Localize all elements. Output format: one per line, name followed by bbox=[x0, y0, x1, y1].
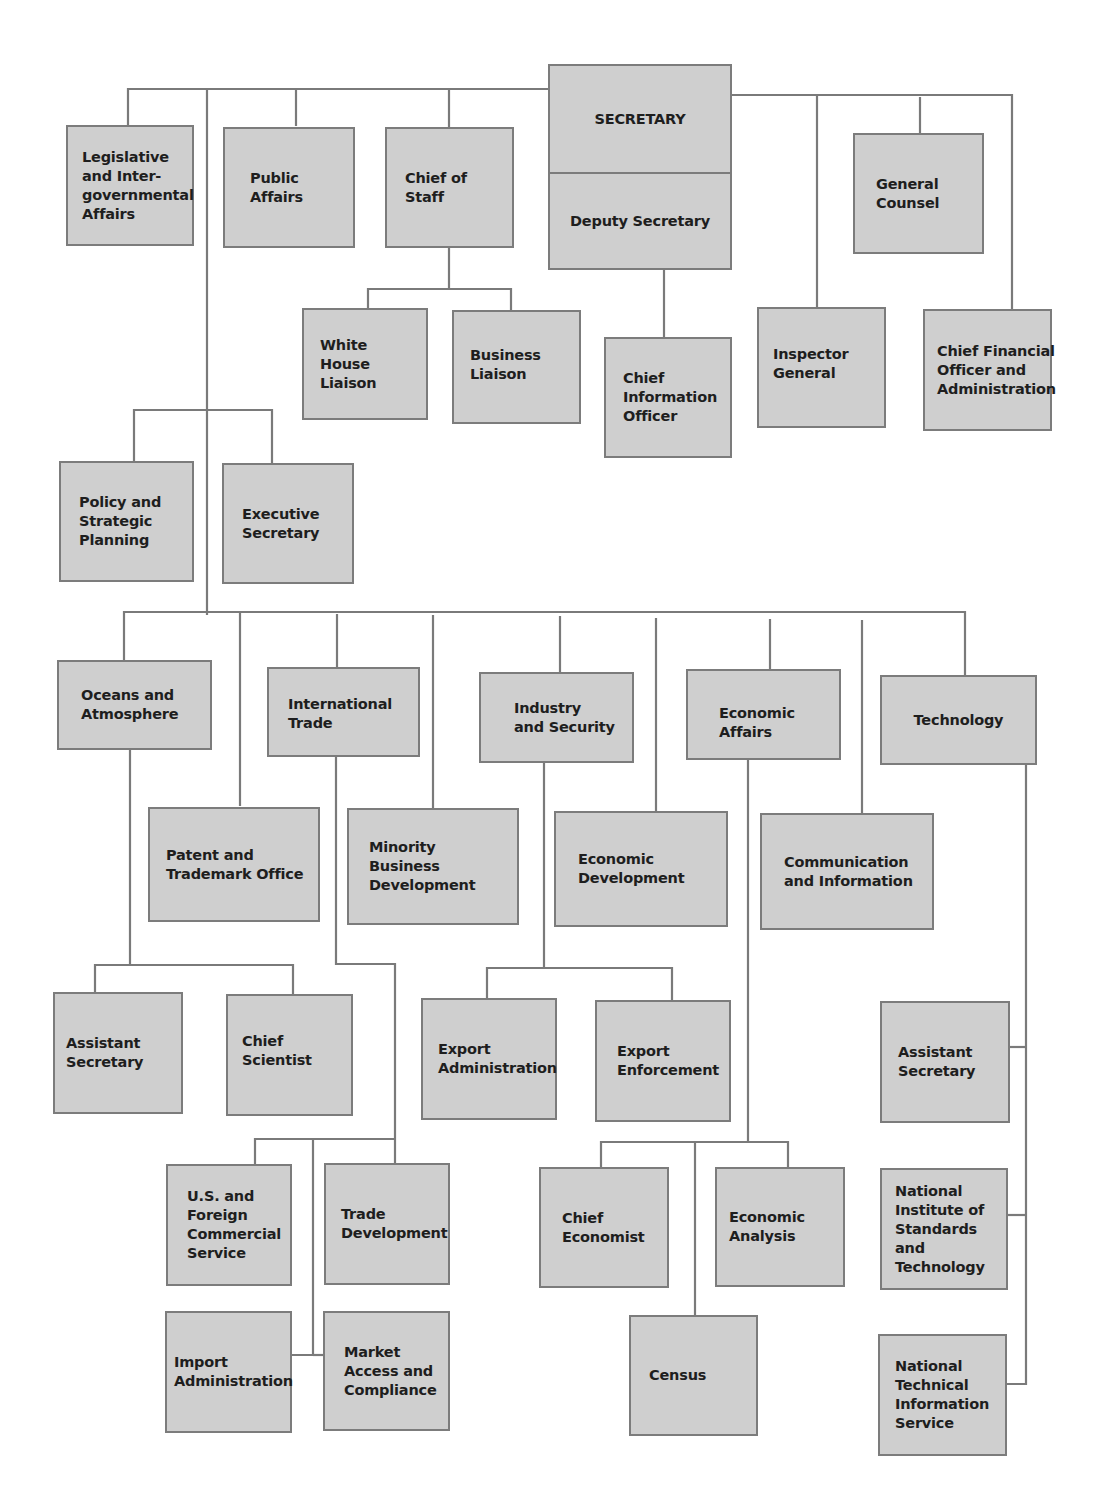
legislative-affairs-label: Legislative and Inter- governmental Affa… bbox=[82, 148, 194, 224]
chief-information-officer-label: Chief Information Officer bbox=[623, 369, 717, 426]
import-administration-box[interactable]: Import Administration bbox=[165, 1311, 292, 1433]
deputy-secretary-box[interactable]: Deputy Secretary bbox=[548, 172, 732, 270]
policy-strategic-planning-label: Policy and Strategic Planning bbox=[79, 493, 161, 550]
deputy-secretary-label: Deputy Secretary bbox=[570, 212, 710, 231]
economic-development-box[interactable]: Economic Development bbox=[554, 811, 728, 927]
economic-analysis-box[interactable]: Economic Analysis bbox=[715, 1167, 845, 1287]
chief-of-staff-box[interactable]: Chief of Staff bbox=[385, 127, 514, 248]
international-trade-box[interactable]: International Trade bbox=[267, 667, 420, 757]
org-chart: SECRETARY Deputy Secretary Legislative a… bbox=[0, 0, 1093, 1505]
legislative-affairs-box[interactable]: Legislative and Inter- governmental Affa… bbox=[66, 125, 194, 246]
chief-of-staff-label: Chief of Staff bbox=[405, 169, 467, 207]
export-administration-label: Export Administration bbox=[438, 1040, 557, 1078]
inspector-general-label: Inspector General bbox=[773, 345, 848, 383]
chief-information-officer-box[interactable]: Chief Information Officer bbox=[604, 337, 732, 458]
inspector-general-box[interactable]: Inspector General bbox=[757, 307, 886, 428]
nist-box[interactable]: National Institute of Standards and Tech… bbox=[880, 1168, 1008, 1290]
trade-development-box[interactable]: Trade Development bbox=[324, 1163, 450, 1285]
general-counsel-label: General Counsel bbox=[876, 175, 939, 213]
secretary-box[interactable]: SECRETARY bbox=[548, 64, 732, 174]
oceans-assistant-secretary-box[interactable]: Assistant Secretary bbox=[53, 992, 183, 1114]
international-trade-label: International Trade bbox=[288, 695, 392, 733]
market-access-compliance-box[interactable]: Market Access and Compliance bbox=[323, 1311, 450, 1431]
us-foreign-commercial-service-label: U.S. and Foreign Commercial Service bbox=[187, 1187, 281, 1263]
oceans-assistant-secretary-label: Assistant Secretary bbox=[66, 1034, 143, 1072]
secretary-group: SECRETARY Deputy Secretary bbox=[548, 64, 732, 270]
ntis-box[interactable]: National Technical Information Service bbox=[878, 1334, 1007, 1456]
census-box[interactable]: Census bbox=[629, 1315, 758, 1436]
economic-analysis-label: Economic Analysis bbox=[729, 1208, 805, 1246]
white-house-liaison-label: White House Liaison bbox=[320, 336, 376, 393]
minority-business-development-box[interactable]: Minority Business Development bbox=[347, 808, 519, 925]
chief-economist-box[interactable]: Chief Economist bbox=[539, 1167, 669, 1288]
export-enforcement-box[interactable]: Export Enforcement bbox=[595, 1000, 731, 1122]
oceans-atmosphere-box[interactable]: Oceans and Atmosphere bbox=[57, 660, 212, 750]
export-administration-box[interactable]: Export Administration bbox=[421, 998, 557, 1120]
secretary-label: SECRETARY bbox=[594, 110, 685, 129]
ntis-label: National Technical Information Service bbox=[895, 1357, 989, 1433]
technology-label: Technology bbox=[914, 711, 1004, 730]
market-access-compliance-label: Market Access and Compliance bbox=[344, 1343, 437, 1400]
business-liaison-label: Business Liaison bbox=[470, 346, 541, 384]
import-administration-label: Import Administration bbox=[174, 1353, 293, 1391]
public-affairs-label: Public Affairs bbox=[250, 169, 303, 207]
oceans-atmosphere-label: Oceans and Atmosphere bbox=[81, 686, 178, 724]
chief-scientist-box[interactable]: Chief Scientist bbox=[226, 994, 353, 1116]
chief-economist-label: Chief Economist bbox=[562, 1209, 645, 1247]
trade-development-label: Trade Development bbox=[341, 1205, 447, 1243]
patent-trademark-office-label: Patent and Trademark Office bbox=[166, 846, 303, 884]
us-foreign-commercial-service-box[interactable]: U.S. and Foreign Commercial Service bbox=[166, 1164, 292, 1286]
nist-label: National Institute of Standards and Tech… bbox=[895, 1182, 1000, 1277]
economic-affairs-label: Economic Affairs bbox=[719, 704, 795, 742]
cfo-administration-label: Chief Financial Officer and Administrati… bbox=[937, 342, 1056, 399]
minority-business-development-label: Minority Business Development bbox=[369, 838, 511, 895]
white-house-liaison-box[interactable]: White House Liaison bbox=[302, 308, 428, 420]
technology-assistant-secretary-box[interactable]: Assistant Secretary bbox=[880, 1001, 1010, 1123]
economic-affairs-box[interactable]: Economic Affairs bbox=[686, 669, 841, 760]
communication-information-box[interactable]: Communication and Information bbox=[760, 813, 934, 930]
patent-trademark-office-box[interactable]: Patent and Trademark Office bbox=[148, 807, 320, 922]
executive-secretary-box[interactable]: Executive Secretary bbox=[222, 463, 354, 584]
policy-strategic-planning-box[interactable]: Policy and Strategic Planning bbox=[59, 461, 194, 582]
general-counsel-box[interactable]: General Counsel bbox=[853, 133, 984, 254]
industry-security-label: Industry and Security bbox=[514, 699, 615, 737]
executive-secretary-label: Executive Secretary bbox=[242, 505, 319, 543]
cfo-administration-box[interactable]: Chief Financial Officer and Administrati… bbox=[923, 309, 1052, 431]
public-affairs-box[interactable]: Public Affairs bbox=[223, 127, 355, 248]
economic-development-label: Economic Development bbox=[578, 850, 684, 888]
technology-assistant-secretary-label: Assistant Secretary bbox=[898, 1043, 975, 1081]
business-liaison-box[interactable]: Business Liaison bbox=[452, 310, 581, 424]
technology-box[interactable]: Technology bbox=[880, 675, 1037, 765]
communication-information-label: Communication and Information bbox=[784, 853, 913, 891]
industry-security-box[interactable]: Industry and Security bbox=[479, 672, 634, 763]
export-enforcement-label: Export Enforcement bbox=[617, 1042, 719, 1080]
census-label: Census bbox=[649, 1366, 706, 1385]
chief-scientist-label: Chief Scientist bbox=[242, 1032, 312, 1070]
